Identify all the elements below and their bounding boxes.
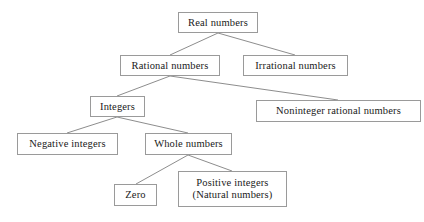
node-positive-integers: Positive integers (Natural numbers) — [178, 171, 287, 207]
node-positive-integers-label-line1: Positive integers — [196, 177, 268, 189]
node-integers: Integers — [90, 96, 145, 117]
edge-whole-to-positive — [188, 155, 232, 171]
node-integers-label: Integers — [100, 101, 135, 113]
node-negative-integers-label: Negative integers — [29, 138, 105, 150]
edge-rational-to-integers — [117, 76, 170, 96]
node-noninteger-rational-numbers: Noninteger rational numbers — [256, 100, 421, 122]
edge-real-to-rational — [170, 33, 218, 55]
node-rational-numbers-label: Rational numbers — [132, 60, 209, 72]
node-positive-integers-label-line2: (Natural numbers) — [193, 189, 273, 201]
number-classification-diagram: Real numbers Rational numbers Irrational… — [0, 0, 424, 222]
node-whole-numbers: Whole numbers — [145, 133, 232, 155]
node-rational-numbers: Rational numbers — [120, 55, 220, 76]
node-real-numbers: Real numbers — [178, 12, 258, 33]
edge-rational-to-noninteger — [170, 76, 338, 100]
node-negative-integers: Negative integers — [17, 133, 118, 155]
node-zero-label: Zero — [125, 189, 145, 201]
node-noninteger-rational-numbers-label: Noninteger rational numbers — [276, 105, 401, 117]
node-zero: Zero — [114, 184, 157, 206]
edge-integers-to-negative — [67, 117, 117, 133]
edge-integers-to-whole — [117, 117, 188, 133]
node-irrational-numbers: Irrational numbers — [243, 55, 348, 76]
edge-real-to-irrational — [218, 33, 295, 55]
node-real-numbers-label: Real numbers — [188, 17, 248, 29]
node-whole-numbers-label: Whole numbers — [154, 138, 223, 150]
node-irrational-numbers-label: Irrational numbers — [255, 60, 336, 72]
